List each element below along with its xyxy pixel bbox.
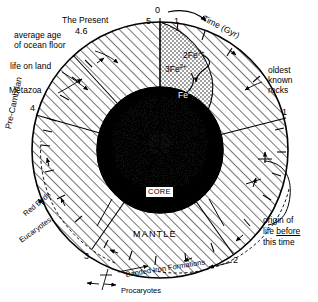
ferrous-iron-label: 3Fe2+: [165, 62, 187, 74]
origin-of-life-line1: origin of: [263, 216, 293, 226]
metallic-iron-symbol: Fe: [178, 90, 188, 100]
tick-label-1-right: 1: [282, 108, 287, 118]
mantle-label: MANTLE: [133, 230, 177, 240]
core-label: CORE: [145, 186, 174, 198]
ferric-coefficient: 2Fe: [183, 50, 198, 60]
ferric-charge: 3+: [198, 49, 205, 55]
ocean-floor-label-line2: of ocean floor: [14, 41, 66, 51]
tick-label-2: 2: [233, 256, 238, 266]
metallic-iron-charge: o: [188, 89, 191, 95]
procaryotes-label: Procaryotes: [121, 287, 161, 296]
present-label: The Present: [62, 16, 108, 26]
oldest-rocks-line3: rocks: [268, 86, 288, 96]
tick-label-0: 0: [155, 6, 160, 16]
tick-label-1-top: 1: [174, 17, 179, 27]
earth-history-radial-diagram: 0 5 1 Time (Gyr) The Present 4.6 average…: [0, 0, 318, 302]
procaryotes-leader: [87, 269, 116, 290]
present-value: 4.6: [75, 27, 88, 37]
origin-of-life-before-word: before: [276, 226, 300, 236]
ferrous-coefficient: 3Fe: [165, 64, 180, 74]
ferrous-charge: 2+: [180, 63, 187, 69]
origin-of-life-line3: this time: [263, 238, 295, 248]
tick-label-4: 4: [30, 104, 35, 114]
origin-of-life-life-word: life: [263, 226, 276, 236]
ferric-iron-label: 2Fe3+: [183, 48, 205, 60]
metallic-iron-label: Feo: [178, 88, 191, 100]
tick-label-3: 3: [84, 252, 89, 262]
life-on-land-label: life on land: [10, 62, 51, 72]
tick-label-5: 5: [146, 17, 151, 27]
origin-of-life-line2: life before: [263, 227, 300, 237]
